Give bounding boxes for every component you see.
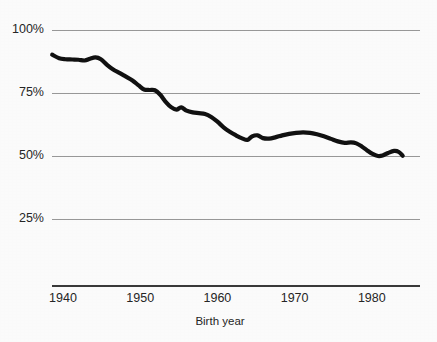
x-axis-tick-label: 1980 [358, 291, 386, 305]
y-axis-tick-label: 75% [19, 85, 44, 99]
x-axis-tick-labels: 19401950196019701980 [49, 291, 386, 305]
y-axis-tick-label: 100% [12, 22, 44, 36]
x-axis-tick-label: 1960 [203, 291, 231, 305]
y-axis-tick-labels: 100%75%50%25% [12, 22, 44, 225]
chart-container: 100%75%50%25% 19401950196019701980 Birth… [0, 0, 437, 342]
y-axis-tick-label: 25% [19, 211, 44, 225]
y-axis-tick-label: 50% [19, 148, 44, 162]
gridlines [52, 30, 420, 219]
line-chart: 100%75%50%25% 19401950196019701980 Birth… [0, 0, 437, 342]
data-line-series [52, 55, 402, 156]
x-axis-tick-label: 1940 [49, 291, 77, 305]
x-axis-title: Birth year [195, 315, 244, 327]
x-axis-tick-label: 1970 [281, 291, 309, 305]
x-axis-tick-label: 1950 [126, 291, 154, 305]
